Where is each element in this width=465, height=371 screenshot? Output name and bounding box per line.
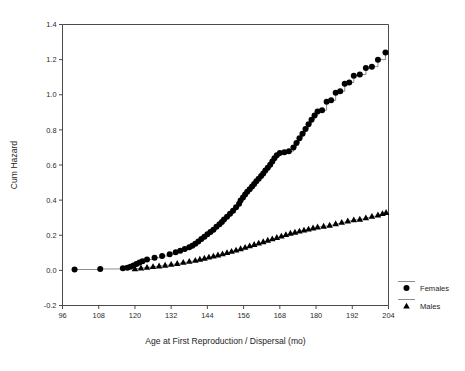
y-axis-title: Cum Hazard xyxy=(9,141,19,189)
y-tick-label: 0.2 xyxy=(46,231,56,240)
figure-container: -0.20.00.20.40.60.81.01.21.4 96108120132… xyxy=(0,0,465,371)
legend-label: Males xyxy=(420,302,440,311)
legend-marker-circle xyxy=(404,285,410,291)
y-tick-label: 1.4 xyxy=(46,20,56,29)
data-point-circle xyxy=(369,64,375,70)
x-tick-label: 156 xyxy=(237,311,249,320)
data-point-circle xyxy=(159,253,165,259)
data-point-circle xyxy=(144,256,150,262)
data-point-circle xyxy=(337,88,343,94)
y-tick-label: 1.0 xyxy=(46,90,56,99)
x-tick-label: 108 xyxy=(93,311,105,320)
x-axis-title: Age at First Reproduction / Dispersal (m… xyxy=(145,336,306,346)
x-tick-label: 144 xyxy=(201,311,213,320)
x-tick-label: 204 xyxy=(382,311,394,320)
x-tick-label: 132 xyxy=(165,311,177,320)
x-tick-label: 120 xyxy=(129,311,141,320)
data-point-circle xyxy=(328,97,334,103)
data-point-circle xyxy=(319,107,325,113)
data-point-circle xyxy=(72,267,78,273)
data-point-circle xyxy=(152,255,158,261)
y-tick-label: 1.2 xyxy=(46,55,56,64)
data-point-circle xyxy=(351,73,357,79)
x-tick-label: 180 xyxy=(310,311,322,320)
data-point-circle xyxy=(97,266,103,272)
data-point-circle xyxy=(167,251,173,257)
x-tick-label: 192 xyxy=(346,311,358,320)
y-tick-label: -0.2 xyxy=(44,301,57,310)
y-tick-label: 0.4 xyxy=(46,196,56,205)
data-point-circle xyxy=(363,65,369,71)
data-point-circle xyxy=(286,148,292,154)
y-tick-label: 0.8 xyxy=(46,126,56,135)
cum-hazard-chart: -0.20.00.20.40.60.81.01.21.4 96108120132… xyxy=(0,0,465,371)
data-point-circle xyxy=(357,72,363,78)
legend-label: Females xyxy=(420,284,449,293)
x-tick-label: 96 xyxy=(58,311,66,320)
data-point-circle xyxy=(382,50,388,56)
x-tick-label: 168 xyxy=(274,311,286,320)
chart-background xyxy=(0,0,465,371)
y-tick-label: 0.6 xyxy=(46,161,56,170)
y-tick-label: 0.0 xyxy=(46,266,56,275)
data-point-circle xyxy=(346,79,352,85)
data-point-circle xyxy=(375,57,381,63)
